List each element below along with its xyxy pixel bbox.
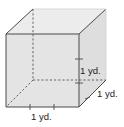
width-label: 1 yd. [31, 111, 52, 122]
cube-diagram: 1 yd. 1 yd. 1 yd. [0, 0, 124, 127]
depth-label: 1 yd. [97, 88, 118, 99]
height-label: 1 yd. [80, 65, 101, 76]
